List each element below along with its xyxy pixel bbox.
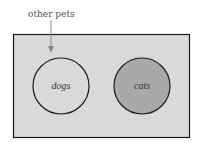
cats-label: cats (134, 80, 150, 91)
other-pets-label: other pets (28, 9, 75, 19)
dogs-label: dogs (52, 80, 71, 91)
venn-diagram: other pets dogs cats (0, 0, 199, 143)
